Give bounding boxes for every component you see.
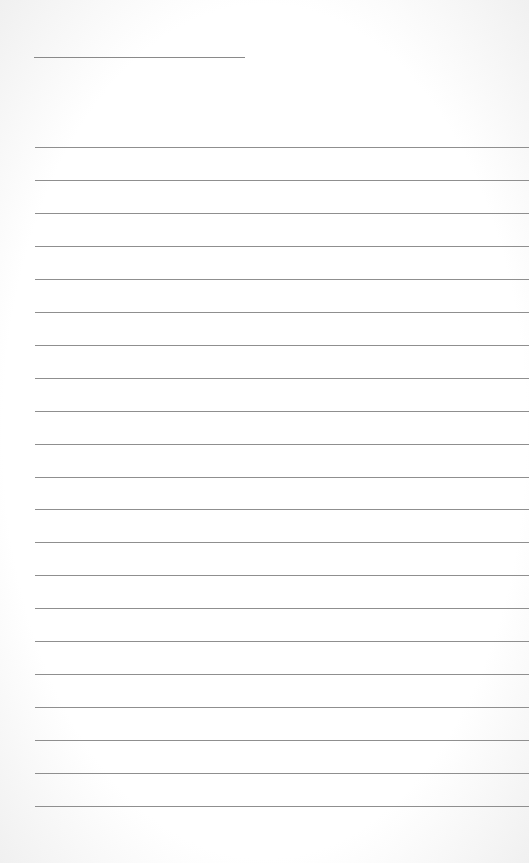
ruled-line	[35, 279, 529, 280]
ruled-line	[35, 575, 529, 576]
ruled-line	[35, 411, 529, 412]
ruled-line	[35, 213, 529, 214]
ruled-line	[35, 674, 529, 675]
ruled-line	[35, 641, 529, 642]
ruled-line	[35, 246, 529, 247]
ruled-line	[35, 740, 529, 741]
ruled-line	[35, 509, 529, 510]
ruled-line	[35, 542, 529, 543]
ruled-line	[35, 707, 529, 708]
ruled-line	[35, 147, 529, 148]
ruled-line	[35, 773, 529, 774]
lined-paper-page	[0, 0, 529, 863]
ruled-line	[35, 378, 529, 379]
ruled-line	[35, 312, 529, 313]
ruled-line	[35, 477, 529, 478]
ruled-line	[35, 608, 529, 609]
ruled-line	[35, 180, 529, 181]
ruled-line	[35, 345, 529, 346]
ruled-line	[35, 806, 529, 807]
ruled-line	[35, 444, 529, 445]
title-line	[34, 57, 245, 58]
